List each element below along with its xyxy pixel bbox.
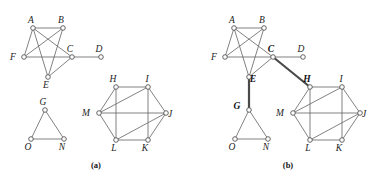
edge-B-E xyxy=(48,28,63,77)
vertex-label-N: N xyxy=(262,142,270,152)
vertex-label-O: O xyxy=(229,142,236,152)
edge-A-E xyxy=(234,28,249,77)
vertex-I[interactable] xyxy=(146,85,151,90)
component-a-gon: GON xyxy=(25,97,67,152)
vertex-label-B: B xyxy=(58,15,64,25)
vertex-label-G: G xyxy=(234,101,241,111)
edge-L-M xyxy=(293,113,310,140)
vertex-label-C: C xyxy=(268,44,275,54)
edge-B-F xyxy=(225,28,264,57)
vertex-label-O: O xyxy=(25,142,32,152)
vertex-label-E: E xyxy=(42,80,49,90)
vertex-label-H: H xyxy=(302,74,311,84)
component-a-abcdef-nodes: ABCDEF xyxy=(9,15,103,90)
edge-C-E xyxy=(48,57,72,77)
vertex-label-D: D xyxy=(297,44,305,54)
component-a-hexagon: HIJKLM xyxy=(81,74,173,153)
edge-B-E xyxy=(249,28,264,77)
vertex-N[interactable] xyxy=(266,137,271,142)
vertex-A[interactable] xyxy=(31,26,36,31)
component-a-gon-nodes: GON xyxy=(25,97,67,152)
vertex-label-A: A xyxy=(228,15,235,25)
vertex-C[interactable] xyxy=(271,55,276,60)
component-a-abcdef: ABCDEF xyxy=(9,15,103,90)
edge-A-E xyxy=(33,28,48,77)
vertex-M[interactable] xyxy=(291,111,296,116)
graph-svg-canvas: ABCDEFGONHIJKLM(a)ABCDEFGONHIJKLM(b) xyxy=(0,0,384,179)
edge-M-I xyxy=(293,87,342,113)
edge-I-J xyxy=(148,87,166,113)
edge-M-H xyxy=(99,87,116,113)
vertex-D[interactable] xyxy=(301,55,306,60)
vertex-F[interactable] xyxy=(22,55,27,60)
vertex-label-M: M xyxy=(275,108,285,118)
vertex-H[interactable] xyxy=(114,85,119,90)
vertex-label-F: F xyxy=(210,52,217,62)
vertex-label-J: J xyxy=(362,109,367,119)
vertex-N[interactable] xyxy=(62,137,67,142)
vertex-H[interactable] xyxy=(308,85,313,90)
edge-I-J xyxy=(342,87,360,113)
component-a-hexagon-nodes: HIJKLM xyxy=(81,74,173,153)
vertex-C[interactable] xyxy=(70,55,75,60)
vertex-E[interactable] xyxy=(46,75,51,80)
edge-L-M xyxy=(99,113,116,140)
edge-M-I xyxy=(99,87,148,113)
panel-caption-panel-a: (a) xyxy=(91,160,101,170)
vertex-L[interactable] xyxy=(308,138,313,143)
component-b-tree-nodes: ABCDEFGONHIJKLM xyxy=(210,15,367,153)
edge-M-H xyxy=(293,87,310,113)
vertex-label-G: G xyxy=(40,97,47,107)
component-a-abcdef-edges xyxy=(24,28,101,77)
vertex-B[interactable] xyxy=(262,26,267,31)
vertex-label-E: E xyxy=(249,74,256,84)
panel-a: ABCDEFGONHIJKLM(a) xyxy=(9,15,173,170)
edge-G-O xyxy=(235,110,249,139)
vertex-B[interactable] xyxy=(61,26,66,31)
vertex-label-H: H xyxy=(109,74,118,84)
vertex-label-M: M xyxy=(81,108,91,118)
vertex-A[interactable] xyxy=(232,26,237,31)
edge-G-N xyxy=(249,110,268,139)
vertex-D[interactable] xyxy=(99,55,104,60)
panel-b: ABCDEFGONHIJKLM(b) xyxy=(210,15,367,170)
vertex-label-J: J xyxy=(168,109,173,119)
panel-caption-panel-b: (b) xyxy=(283,160,294,170)
vertex-label-F: F xyxy=(9,52,16,62)
edge-G-N xyxy=(45,110,64,139)
vertex-label-C: C xyxy=(67,44,74,54)
component-a-gon-edges xyxy=(31,110,64,139)
vertex-label-I: I xyxy=(144,74,149,84)
edge-L-J xyxy=(116,113,166,140)
vertex-label-D: D xyxy=(95,44,103,54)
vertex-G[interactable] xyxy=(43,108,48,113)
edge-A-F xyxy=(225,28,234,57)
component-a-hexagon-edges xyxy=(99,87,166,140)
vertex-label-A: A xyxy=(27,15,34,25)
edge-B-F xyxy=(24,28,63,57)
edge-G-O xyxy=(31,110,45,139)
vertex-label-K: K xyxy=(141,143,149,153)
vertex-O[interactable] xyxy=(29,137,34,142)
vertex-label-L: L xyxy=(110,143,116,153)
vertex-O[interactable] xyxy=(233,137,238,142)
vertex-K[interactable] xyxy=(340,138,345,143)
vertex-label-B: B xyxy=(259,15,265,25)
vertex-G[interactable] xyxy=(247,108,252,113)
edge-J-K xyxy=(342,113,360,140)
component-b-tree-edges xyxy=(225,28,360,140)
vertex-K[interactable] xyxy=(146,138,151,143)
vertex-label-N: N xyxy=(58,142,66,152)
vertex-L[interactable] xyxy=(114,138,119,143)
graph-figure: ABCDEFGONHIJKLM(a)ABCDEFGONHIJKLM(b) xyxy=(0,0,384,179)
vertex-label-K: K xyxy=(335,143,343,153)
edge-J-K xyxy=(148,113,166,140)
vertex-label-I: I xyxy=(338,74,343,84)
edge-L-J xyxy=(310,113,360,140)
vertex-M[interactable] xyxy=(97,111,102,116)
edge-A-F xyxy=(24,28,33,57)
vertex-I[interactable] xyxy=(340,85,345,90)
vertex-label-L: L xyxy=(304,143,310,153)
vertex-F[interactable] xyxy=(223,55,228,60)
component-b-tree: ABCDEFGONHIJKLM xyxy=(210,15,367,153)
